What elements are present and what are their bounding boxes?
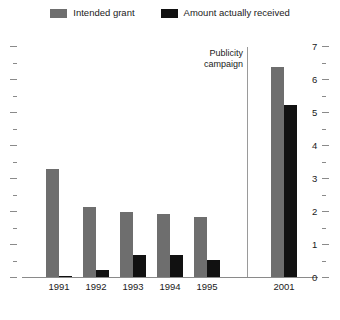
y-axis-tick-label: 7 — [312, 42, 317, 52]
bar-group — [157, 47, 183, 278]
grant-swatch-icon — [50, 9, 67, 18]
x-axis-tick-label: 1994 — [159, 281, 180, 293]
legend-entry-intended-grant: Intended grant — [50, 8, 134, 18]
y-axis-labels: 01234567 — [312, 47, 338, 278]
y-axis-tick-label: 2 — [312, 207, 317, 217]
bar-amount-received — [133, 255, 146, 278]
y-axis-tick-label: 6 — [312, 75, 317, 85]
bar-chart: Intended grant Amount actually received … — [0, 0, 340, 320]
bar-intended-grant — [194, 217, 207, 278]
y-axis-tick-label: 3 — [312, 174, 317, 184]
y-axis-tick-label: 5 — [312, 108, 317, 118]
legend-entry-amount-received: Amount actually received — [161, 8, 290, 18]
bar-group — [271, 47, 297, 278]
bar-group — [46, 47, 72, 278]
bar-amount-received — [170, 255, 183, 278]
x-axis-tick-label: 2001 — [273, 281, 294, 293]
y-axis-tick-label: 4 — [312, 141, 317, 151]
bar-intended-grant — [157, 214, 170, 278]
bar-amount-received — [284, 105, 297, 278]
x-axis-tick-label: 1995 — [196, 281, 217, 293]
bar-group — [83, 47, 109, 278]
legend-label-amount-received: Amount actually received — [184, 8, 290, 18]
bar-group — [120, 47, 146, 278]
x-axis-tick-label: 1991 — [48, 281, 69, 293]
bar-group — [194, 47, 220, 278]
chart-legend: Intended grant Amount actually received — [0, 8, 340, 18]
plot-area — [22, 47, 318, 278]
x-axis-tick-label: 1993 — [122, 281, 143, 293]
x-axis-baseline — [22, 277, 318, 278]
y-axis-ticks-left — [8, 47, 17, 278]
bar-amount-received — [207, 260, 220, 278]
x-axis-labels: 199119921993199419952001 — [22, 281, 318, 295]
legend-label-intended-grant: Intended grant — [73, 8, 134, 18]
x-axis-tick-label: 1992 — [85, 281, 106, 293]
bar-intended-grant — [120, 212, 133, 278]
y-axis-tick-label: 1 — [312, 240, 317, 250]
bar-intended-grant — [46, 169, 59, 278]
bar-intended-grant — [271, 67, 284, 278]
bar-intended-grant — [83, 207, 96, 278]
received-swatch-icon — [161, 9, 178, 18]
period-divider-line — [247, 47, 248, 278]
